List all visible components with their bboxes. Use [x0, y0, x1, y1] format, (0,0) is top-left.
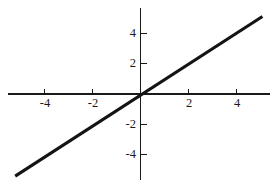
y-tick-label-neg2: -2 — [126, 117, 136, 131]
x-tick-label-neg4: -4 — [40, 96, 51, 110]
x-tick-label-neg2: -2 — [88, 96, 98, 110]
y-tick-label-pos4: 4 — [130, 26, 137, 40]
x-tick-label-pos2: 2 — [186, 96, 192, 110]
data-line-y-equals-x — [15, 16, 262, 176]
plot-canvas: -4 -2 2 4 4 2 -2 -4 — [0, 0, 280, 184]
y-tick-label-pos2: 2 — [130, 56, 136, 70]
x-tick-label-pos4: 4 — [234, 96, 241, 110]
line-plot-figure: -4 -2 2 4 4 2 -2 -4 — [0, 0, 280, 184]
y-tick-label-neg4: -4 — [126, 147, 137, 161]
